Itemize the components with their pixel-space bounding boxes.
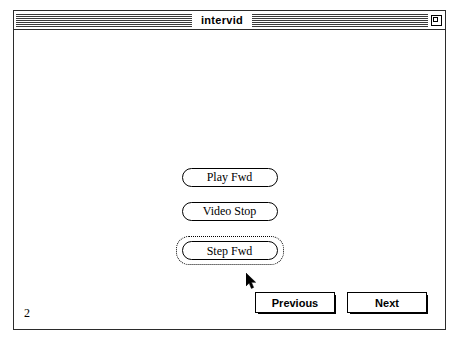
- step-fwd-focus-ring: Step Fwd: [176, 236, 284, 265]
- play-fwd-button[interactable]: Play Fwd: [182, 168, 278, 187]
- zoom-box-icon[interactable]: [431, 15, 442, 26]
- window-content-area: Play Fwd Video Stop Step Fwd Previous Ne…: [14, 30, 445, 329]
- window-title: intervid: [194, 12, 250, 29]
- next-button[interactable]: Next: [347, 292, 427, 313]
- application-window: intervid Play Fwd Video Stop Step Fwd Pr…: [13, 10, 446, 330]
- previous-button[interactable]: Previous: [255, 292, 335, 313]
- window-title-bar[interactable]: intervid: [14, 11, 445, 30]
- video-stop-button[interactable]: Video Stop: [182, 202, 278, 221]
- video-controls-group: Play Fwd Video Stop Step Fwd: [14, 168, 445, 265]
- page-number: 2: [24, 306, 30, 321]
- title-bar-stripes-right: [252, 14, 428, 27]
- step-fwd-button[interactable]: Step Fwd: [182, 241, 278, 260]
- navigation-buttons-group: Previous Next: [255, 292, 427, 313]
- arrow-pointer-icon: [246, 273, 258, 291]
- title-bar-stripes-left: [16, 14, 192, 27]
